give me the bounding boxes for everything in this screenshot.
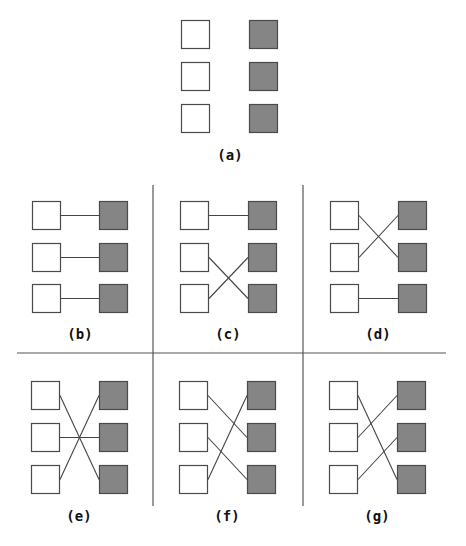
left-node: [181, 244, 209, 272]
right-node: [248, 424, 276, 452]
panel-f: (f): [180, 382, 276, 525]
right-node: [399, 244, 427, 272]
left-node: [33, 202, 61, 230]
panel-label: (e): [66, 508, 91, 524]
left-node: [331, 244, 359, 272]
right-node: [398, 382, 426, 410]
left-node: [32, 382, 60, 410]
panel-e: (e): [32, 382, 128, 525]
left-node: [180, 466, 208, 494]
edge-line: [208, 396, 247, 480]
left-node: [331, 285, 359, 313]
left-node: [181, 202, 209, 230]
bipartite-matching-figure: (a)(b)(c)(d)(e)(f)(g): [0, 0, 466, 546]
left-node: [182, 105, 210, 133]
right-node: [399, 285, 427, 313]
panel-label: (d): [365, 326, 390, 342]
panel-label: (a): [217, 147, 242, 163]
panel-a: (a): [182, 21, 278, 164]
left-node: [182, 63, 210, 91]
right-node: [249, 202, 277, 230]
edge-line: [208, 438, 247, 480]
panel-d: (d): [331, 202, 427, 343]
right-node: [248, 382, 276, 410]
right-node: [250, 21, 278, 49]
right-node: [100, 202, 128, 230]
panel-label: (b): [67, 326, 92, 342]
panel-b: (b): [33, 202, 128, 343]
right-node: [398, 466, 426, 494]
right-node: [250, 63, 278, 91]
panel-label: (c): [215, 326, 240, 342]
edge-line: [358, 396, 397, 438]
right-node: [248, 466, 276, 494]
panel-g: (g): [330, 382, 426, 525]
right-node: [100, 285, 128, 313]
panel-label: (g): [364, 508, 389, 524]
left-node: [32, 466, 60, 494]
left-node: [330, 466, 358, 494]
right-node: [249, 285, 277, 313]
edge-line: [208, 396, 247, 438]
right-node: [100, 466, 128, 494]
right-node: [249, 244, 277, 272]
right-node: [100, 382, 128, 410]
right-node: [100, 424, 128, 452]
right-node: [398, 424, 426, 452]
left-node: [180, 424, 208, 452]
edge-line: [358, 438, 397, 480]
right-node: [100, 244, 128, 272]
right-node: [250, 105, 278, 133]
panel-c: (c): [181, 202, 277, 343]
panel-label: (f): [214, 508, 239, 524]
left-node: [32, 424, 60, 452]
left-node: [180, 382, 208, 410]
left-node: [182, 21, 210, 49]
right-node: [399, 202, 427, 230]
left-node: [181, 285, 209, 313]
left-node: [330, 424, 358, 452]
left-node: [33, 244, 61, 272]
edge-line: [358, 396, 397, 480]
left-node: [330, 382, 358, 410]
left-node: [33, 285, 61, 313]
left-node: [331, 202, 359, 230]
